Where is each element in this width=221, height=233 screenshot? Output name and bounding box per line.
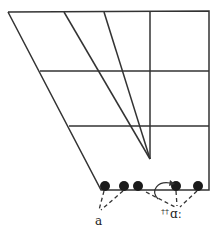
diagonal-line-1 [64, 12, 150, 159]
diagonal-line-2 [104, 12, 150, 159]
leader-line-aa-3 [180, 191, 197, 207]
label-a: a [95, 214, 102, 228]
label-aa-superscript: †† [161, 207, 169, 216]
leader-line-aa-2 [176, 191, 177, 206]
vowel-chart: a †† ɑː [0, 0, 221, 233]
vowel-dot [100, 181, 110, 191]
leader-line-a-2 [101, 191, 123, 210]
vowel-dot [133, 181, 143, 191]
leader-line-a-1 [99, 191, 104, 210]
vowel-dot [193, 181, 203, 191]
leader-line-aa-1 [146, 192, 175, 207]
chart-outline [8, 11, 209, 190]
label-aa: ɑː [170, 207, 182, 221]
curved-arrow [155, 183, 170, 199]
vowel-dot [119, 181, 129, 191]
